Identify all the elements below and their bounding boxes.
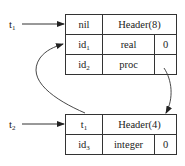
arrow-table2-link-to-id1: [36, 44, 85, 113]
arrows-layer: [0, 0, 185, 166]
arrow-proc-to-table2: [164, 68, 171, 113]
